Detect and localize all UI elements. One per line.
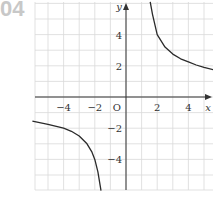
axes [35, 3, 212, 190]
x-axis-arrow-icon [205, 94, 212, 100]
curve-series [32, 2, 213, 191]
origin-label: O [113, 102, 121, 113]
curve-right-branch [150, 2, 213, 70]
x-tick-label: −2 [87, 102, 102, 113]
hyperbola-graph: −4−22442−2−4Oxy [0, 0, 213, 204]
x-axis-label: x [205, 102, 211, 113]
x-tick-label: 2 [154, 102, 160, 113]
x-tick-label: 4 [185, 102, 191, 113]
y-axis-arrow-icon [123, 3, 129, 10]
y-axis-label: y [115, 1, 122, 12]
y-tick-label: 4 [116, 30, 122, 41]
y-tick-label: 2 [116, 61, 122, 72]
x-tick-label: −4 [56, 102, 71, 113]
grid-lines [35, 2, 213, 190]
y-tick-label: −4 [107, 154, 122, 165]
y-tick-label: −2 [107, 123, 122, 134]
curve-left-branch [32, 121, 101, 190]
